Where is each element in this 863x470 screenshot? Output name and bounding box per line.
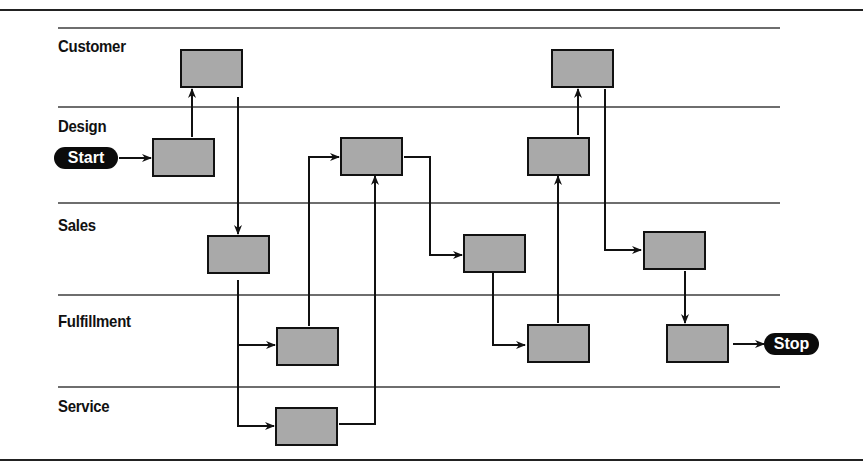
process-box-fulfillment-2 <box>527 324 590 363</box>
start-terminal: Start <box>54 147 118 169</box>
process-box-fulfillment-1 <box>276 327 339 366</box>
lane-label-design: Design <box>58 117 106 137</box>
flow-sales-2-to-fulfillment-2 <box>493 273 525 345</box>
process-box-design-1 <box>152 138 215 177</box>
bottom-rule <box>0 459 863 461</box>
lane-label-fulfillment: Fulfillment <box>58 312 131 332</box>
lane-line-top <box>58 27 780 29</box>
lane-line-design-sales <box>58 202 780 204</box>
flow-design-2-to-sales-2 <box>404 157 462 255</box>
process-box-sales-2 <box>463 234 526 273</box>
process-box-service-1 <box>275 407 338 446</box>
stop-terminal: Stop <box>764 333 819 355</box>
lane-line-sales-fulfillment <box>58 294 780 296</box>
lane-line-fulfillment-service <box>58 386 780 388</box>
flow-fulfillment-1-to-design-2 <box>309 157 339 326</box>
process-box-sales-1 <box>207 235 270 274</box>
flow-customer-2-to-sales-3 <box>605 89 641 250</box>
process-box-design-2 <box>340 137 403 176</box>
lane-label-sales: Sales <box>58 216 96 236</box>
flow-sales-1-to-fulfillment-1 <box>238 280 275 345</box>
process-box-customer-1 <box>180 49 243 88</box>
process-box-design-3 <box>527 137 590 176</box>
lane-line-customer-design <box>58 106 780 108</box>
top-rule <box>0 9 863 11</box>
process-box-customer-2 <box>551 49 614 88</box>
process-box-fulfillment-3 <box>666 324 729 363</box>
process-box-sales-3 <box>643 231 706 270</box>
connector-layer <box>0 0 863 470</box>
lane-label-service: Service <box>58 397 109 417</box>
lane-label-customer: Customer <box>58 37 126 57</box>
